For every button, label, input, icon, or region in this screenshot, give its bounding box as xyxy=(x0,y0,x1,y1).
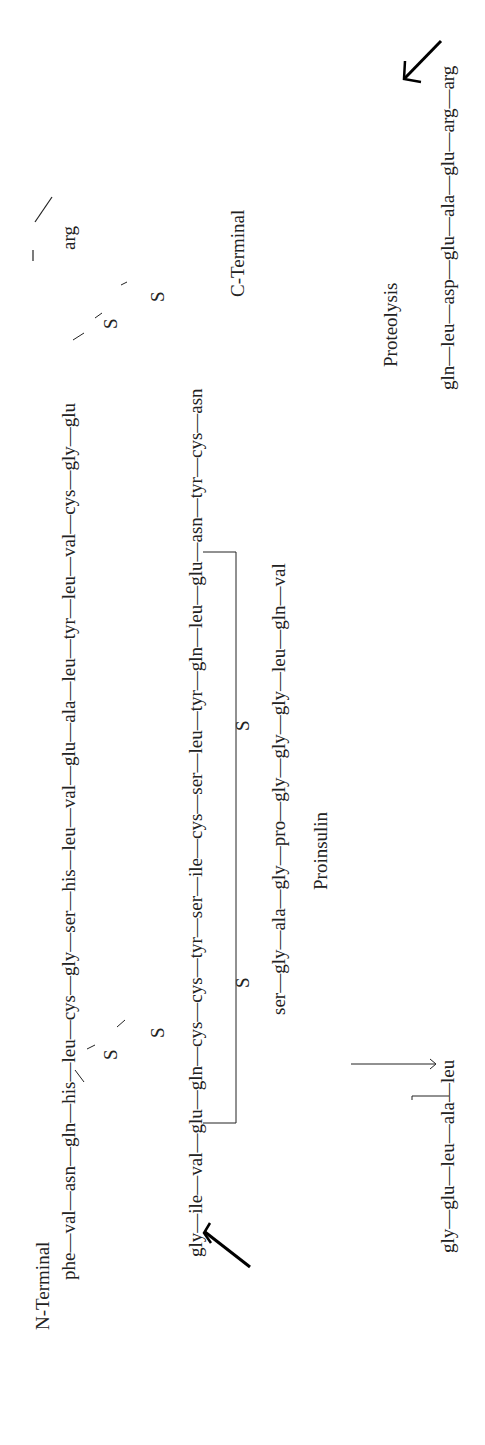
proinsulin-label: Proinsulin xyxy=(310,812,332,890)
proteolysis-label: Proteolysis xyxy=(380,283,402,367)
n-terminal-label: N-Terminal xyxy=(32,1242,54,1330)
s-atom: S xyxy=(147,1027,169,1038)
b-to-c-link: arg xyxy=(58,226,80,250)
c-peptide-low: gly—glu—leu—ala—leu xyxy=(437,1060,459,1253)
a-chain: gly—ile—val—glu—gln—cys—cys—tyr—ser—ile—… xyxy=(185,388,207,1257)
b-chain: phe—val—asn—gln—his—leu—cys—gly—ser—his—… xyxy=(58,403,80,1280)
s-atom: S xyxy=(100,318,122,329)
c-peptide-middle: ser—gly—ala—gly—pro—gly—gly—gly—leu—gln—… xyxy=(268,563,290,1015)
s-atom: S xyxy=(232,720,254,731)
c-terminal-label: C-Terminal xyxy=(227,210,249,297)
s-atom: S xyxy=(100,1049,122,1060)
s-atom: S xyxy=(232,977,254,988)
proinsulin-diagram: N-Terminal phe—val—asn—gln—his—leu—cys—g… xyxy=(0,0,485,1445)
s-atom: S xyxy=(147,291,169,302)
c-peptide-bottom: gln—leu—asp—glu—ala—glu—arg—arg xyxy=(437,66,459,390)
